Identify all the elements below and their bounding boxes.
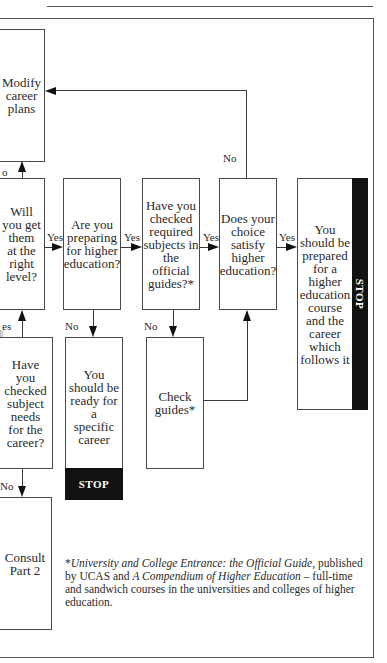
box-text: Does your [220,212,276,225]
connector-guides-up [247,318,248,401]
label-no-partial: o [2,167,8,178]
arrow-down-icon [18,486,26,497]
box-text: Part 2 [5,564,45,577]
consult-part2-box: Consult Part 2 [0,497,52,630]
connector-preparing-to-ready [93,310,94,327]
connector-no-to-modify-horizontal [55,90,246,91]
frame-top [0,18,373,19]
box-text: which [300,340,351,353]
arrow-right-icon [52,243,63,251]
checked-subject-needs-box: Have you checked subject needs for the c… [0,337,53,469]
box-text: education? [220,264,276,277]
box-text: for a [300,262,351,275]
box-text: prepared [300,249,351,262]
footnote-title-compendium: A Compendium of Higher Education [132,570,300,582]
arrow-down-icon [89,326,97,337]
box-text: checked [143,212,199,225]
footnote: *University and College Entrance: the Of… [65,557,365,609]
box-text: You [300,223,351,236]
box-text: education? [64,257,120,270]
box-text: you [4,371,47,384]
header-rule [47,6,373,7]
arrow-right-icon [131,243,142,251]
box-text: subjects in [143,238,199,251]
arrow-right-icon [208,243,219,251]
connector-subject-to-consult [22,469,23,487]
box-text: plans [2,102,41,115]
connector-checked-to-guides [173,310,174,327]
stop-bar-vertical: STOP [352,178,368,410]
ready-specific-career-box: You should be ready for a specific caree… [65,337,123,469]
label-yes-3: Yes [203,232,219,243]
connector-no-to-modify-vertical [246,90,247,178]
preparing-higher-education-box: Are you preparing for higher education? [63,178,121,310]
frame-right [373,18,374,658]
label-no-subject: No [0,481,13,492]
arrow-left-icon [45,87,56,95]
box-text: career [66,433,122,446]
frame-bottom [0,657,374,658]
stop-bar-horizontal: STOP [65,468,123,500]
will-you-get-them-box: Will you get them at the right level? [0,178,45,310]
label-yes-4: Yes [279,232,295,243]
label-yes-1: Yes [47,232,63,243]
footnote-title-official-guide: University and College Entrance: the Off… [71,557,312,569]
box-text: Consult [5,551,45,564]
box-text: and the [300,314,351,327]
check-guides-box: Check guides* [146,337,204,469]
box-text: course [300,301,351,314]
box-text: level? [2,270,41,283]
box-text: Have you [143,199,199,212]
box-text: Have [4,358,47,371]
box-text: choice [220,225,276,238]
box-text: career [300,327,351,340]
modify-career-plans-box: Modify career plans [0,29,45,162]
label-no-preparing: No [65,321,78,332]
arrow-up-icon [18,310,26,321]
box-text: satisfy [220,238,276,251]
choice-satisfy-box: Does your choice satisfy higher educatio… [219,178,277,310]
label-yes-2: Yes [124,232,140,243]
box-text: career? [4,436,47,449]
label-no-checked: No [144,321,157,332]
stop-label: STOP [79,478,110,490]
box-text: for the [4,423,47,436]
arrow-up-icon [243,310,251,321]
label-no-satisfy: No [223,153,236,164]
box-text: should be [300,236,351,249]
box-text: the official [143,251,199,277]
checked-required-subjects-box: Have you checked required subjects in th… [142,178,200,310]
label-yes-partial: es [2,321,11,332]
connector-guides-right [203,400,248,401]
box-text: subject [4,397,47,410]
box-text: higher [300,275,351,288]
box-text: education [300,288,351,301]
arrow-up-icon [18,161,26,172]
box-text: higher [220,251,276,264]
box-text: guides* [155,403,195,416]
box-text: ready for a [66,394,122,420]
box-text: needs [4,410,47,423]
box-text: required [143,225,199,238]
arrow-right-icon [286,243,297,251]
box-text: guides?* [143,277,199,290]
arrow-down-icon [169,326,177,337]
stop-label: STOP [354,279,366,310]
box-text: checked [4,384,47,397]
prepared-higher-education-box: You should be prepared for a higher educ… [297,178,353,410]
box-text: follows it [300,353,351,366]
